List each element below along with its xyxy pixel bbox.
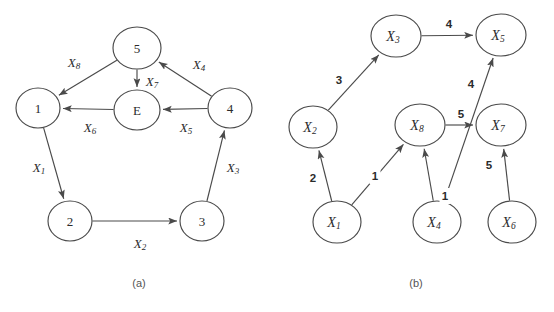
panel-b-nodes: X1X2X3X4X5X6X7X8 <box>289 14 536 243</box>
edge-label-X6-to-X7: 5 <box>484 157 495 173</box>
edge-label-2-to-3: X2 <box>130 235 150 252</box>
caption-a: (a) <box>132 277 145 289</box>
edge-label-text: 5 <box>486 159 493 171</box>
edge-label-X4-to-X8: 1 <box>440 188 451 204</box>
edge-label-text: 4 <box>446 18 453 30</box>
edge-3-to-4 <box>207 130 224 201</box>
edge-label-5-to-1: X8 <box>64 54 84 71</box>
node-3[interactable]: 3 <box>180 201 224 241</box>
edge-X4-to-X8 <box>424 149 433 201</box>
edge-label-text: 5 <box>458 108 465 120</box>
edge-label-text: 2 <box>310 172 316 184</box>
edge-label-3-to-4: X3 <box>223 159 243 176</box>
figure-container: 12345E X8X7X4X5X6X1X2X3 (a) X1X2X3X4X5X6… <box>0 0 554 312</box>
node-X6[interactable]: X6 <box>488 201 536 243</box>
node-label-5: 5 <box>134 41 141 56</box>
panel-a-edges <box>44 60 225 221</box>
node-X3[interactable]: X3 <box>371 15 421 57</box>
edge-label-text: 1 <box>442 190 449 202</box>
node-label-1: 1 <box>35 101 42 116</box>
edge-X6-to-X7 <box>504 149 510 201</box>
node-label-4: 4 <box>227 101 234 116</box>
node-4[interactable]: 4 <box>208 88 252 128</box>
node-X1[interactable]: X1 <box>313 201 361 243</box>
edge-label-X2-to-X3: 3 <box>334 72 345 88</box>
node-X2[interactable]: X2 <box>289 106 337 148</box>
node-X7[interactable]: X7 <box>476 104 526 146</box>
node-X5[interactable]: X5 <box>476 14 526 56</box>
edge-label-4-to-E: X5 <box>176 119 196 136</box>
panel-a-nodes: 12345E <box>16 27 252 241</box>
node-E[interactable]: E <box>114 90 160 130</box>
edge-label-text: 1 <box>372 170 379 182</box>
edge-label-1-to-2: X1 <box>29 159 49 176</box>
caption-b: (b) <box>409 277 422 289</box>
edge-label-X8-to-X7: 5 <box>456 106 467 122</box>
edge-label-X1-to-X2: 2 <box>308 170 319 186</box>
edge-label-X4-to-X5: 4 <box>466 76 477 92</box>
diagram-panel-a: 12345E X8X7X4X5X6X1X2X3 (a) <box>0 0 277 312</box>
node-label-E: E <box>133 103 141 118</box>
node-1[interactable]: 1 <box>16 88 60 128</box>
edge-label-X1-to-X8: 1 <box>370 168 381 184</box>
edge-E-to-1 <box>63 109 114 110</box>
edge-label-E-to-1: X6 <box>80 119 100 136</box>
edge-X1-to-X2 <box>319 150 332 201</box>
node-5[interactable]: 5 <box>113 27 161 69</box>
node-X4[interactable]: X4 <box>413 201 461 243</box>
node-label-3: 3 <box>199 214 206 229</box>
edge-label-5-to-E: X7 <box>142 73 162 90</box>
edge-label-X3-to-X5: 4 <box>444 16 455 32</box>
edge-label-text: 3 <box>336 74 342 86</box>
edge-4-to-E <box>163 108 208 109</box>
diagram-panel-b: X1X2X3X4X5X6X7X8 21345145 (b) <box>277 0 554 312</box>
edge-label-text: 4 <box>468 78 475 90</box>
node-2[interactable]: 2 <box>48 201 92 241</box>
node-X8[interactable]: X8 <box>395 104 445 146</box>
edge-label-4-to-5: X4 <box>189 56 209 73</box>
node-label-2: 2 <box>67 214 74 229</box>
